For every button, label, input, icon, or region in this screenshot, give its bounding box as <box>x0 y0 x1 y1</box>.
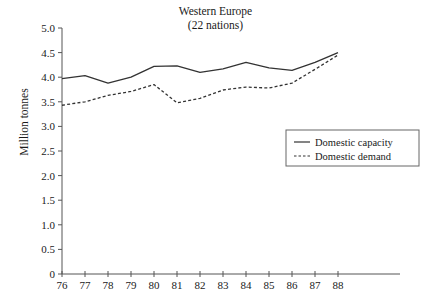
x-tick-label: 87 <box>310 279 322 291</box>
x-tick-label: 84 <box>241 279 253 291</box>
legend-label-domestic-demand: Domestic demand <box>315 151 392 162</box>
chart-container: Western Europe (22 nations) Million tonn… <box>0 0 431 299</box>
y-tick-label: 2.0 <box>41 170 55 182</box>
y-tick-label: 3.5 <box>41 96 55 108</box>
y-tick-label: 5.0 <box>41 22 55 34</box>
legend-label-domestic-capacity: Domestic capacity <box>315 137 394 148</box>
x-tick-label: 78 <box>103 279 115 291</box>
y-tick-label: 4.5 <box>41 47 55 59</box>
y-tick-label: 1.0 <box>41 219 55 231</box>
series-line-domestic-demand <box>62 55 338 105</box>
y-tick-label: 2.5 <box>41 145 55 157</box>
x-tick-label: 88 <box>333 279 345 291</box>
x-tick-label: 79 <box>126 279 138 291</box>
y-tick-label: 0 <box>50 268 56 280</box>
data-series <box>62 53 338 106</box>
y-tick-label: 3.0 <box>41 120 55 132</box>
y-tick-label: 0.5 <box>41 243 55 255</box>
y-axis-ticks: 00.51.01.52.02.53.03.54.04.55.0 <box>41 22 62 280</box>
y-tick-label: 4.0 <box>41 71 55 83</box>
chart-legend: Domestic capacity Domestic demand <box>286 130 419 166</box>
series-line-domestic-capacity <box>62 53 338 84</box>
x-tick-label: 82 <box>195 279 206 291</box>
plot-area: 00.51.01.52.02.53.03.54.04.55.0 76777879… <box>0 0 431 299</box>
x-tick-label: 80 <box>149 279 161 291</box>
x-tick-label: 76 <box>57 279 69 291</box>
y-tick-label: 1.5 <box>41 194 55 206</box>
x-tick-label: 81 <box>172 279 183 291</box>
x-tick-label: 83 <box>218 279 230 291</box>
x-tick-label: 85 <box>264 279 276 291</box>
x-tick-label: 86 <box>287 279 299 291</box>
x-tick-label: 77 <box>80 279 92 291</box>
